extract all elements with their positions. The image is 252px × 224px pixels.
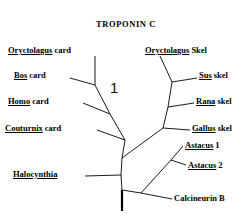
taxon-epithet <box>57 169 59 179</box>
taxon-epithet: skel <box>212 70 228 80</box>
taxon-genus: Astacus <box>188 160 216 170</box>
taxon-label-homo-card: Homocard <box>8 97 49 106</box>
taxon-genus: Homo <box>8 96 30 106</box>
taxon-label-halocynthia: Halocynthia <box>13 170 59 179</box>
taxon-label-astacus-1: Astacus1 <box>185 141 220 150</box>
branch-astacus-1 <box>171 146 183 160</box>
taxon-epithet: card <box>30 96 49 106</box>
taxon-epithet: Skel <box>189 45 207 55</box>
taxon-epithet: card <box>43 123 62 133</box>
taxon-epithet: card <box>52 45 71 55</box>
branch-node-b-to-c <box>110 114 125 140</box>
scale-bar-label: 1 <box>110 80 118 95</box>
taxon-genus: Astacus <box>185 140 213 150</box>
taxon-genus: Rana <box>196 96 215 106</box>
taxon-label-rana-skel: Ranaskel <box>196 97 232 106</box>
taxon-epithet: skel <box>216 123 232 133</box>
taxon-label-astacus-2: Astacus2 <box>188 161 223 170</box>
taxon-genus: Gallus <box>192 123 216 133</box>
taxon-label-gallus-skel: Gallusskel <box>192 124 232 133</box>
branch-node-h-to-i <box>121 175 122 190</box>
taxon-genus: Sus <box>199 70 212 80</box>
taxon-genus: Halocynthia <box>13 169 57 179</box>
taxon-epithet: 1 <box>213 140 219 150</box>
taxon-epithet: card <box>27 70 46 80</box>
phylogenetic-tree-figure: TROPONIN C <box>0 0 252 224</box>
branch-rana-skel <box>168 103 194 107</box>
branch-gallus-skel <box>163 128 190 130</box>
taxon-epithet: skel <box>215 96 231 106</box>
taxon-label-calcineurin-b: CalcineurinB <box>174 194 225 203</box>
branch-couturnix-card <box>97 130 125 140</box>
taxon-label-couturnix-card: Couturnixcard <box>5 124 61 133</box>
branch-node-i-to-j <box>122 190 141 193</box>
tree-branches <box>0 0 252 224</box>
taxon-label-bos-card: Boscard <box>14 71 46 80</box>
branch-astacus-stem <box>141 160 171 193</box>
taxon-label-sus-skel: Susskel <box>199 71 228 80</box>
branch-skeletal-stem <box>122 128 163 158</box>
branch-sus-skel <box>172 78 197 82</box>
branch-node-f-to-g <box>163 107 168 128</box>
branch-astacus-2 <box>171 160 186 165</box>
branch-cardiac-stem <box>122 140 125 158</box>
taxon-genus: Calcineurin <box>174 193 217 203</box>
taxon-genus: Couturnix <box>5 123 43 133</box>
branch-halocynthia <box>85 175 121 176</box>
taxon-label-oryctolagus-skel: OryctolagusSkel <box>145 46 207 55</box>
branch-node-e-to-f <box>168 82 172 107</box>
taxon-label-oryctolagus-card: Oryctolaguscard <box>8 46 71 55</box>
taxon-genus: Bos <box>14 70 27 80</box>
taxon-genus: Oryctolagus <box>145 45 189 55</box>
branch-calcineurin-b <box>141 193 172 199</box>
taxon-epithet: B <box>217 193 225 203</box>
branch-node-a-to-b <box>95 85 110 114</box>
branch-node-d-to-h <box>121 158 122 175</box>
branch-bos-card <box>70 78 95 85</box>
taxon-genus: Oryctolagus <box>8 45 52 55</box>
branch-homo-card <box>83 103 110 114</box>
taxon-epithet: 2 <box>216 160 222 170</box>
branch-oryctolagus-skel <box>160 56 172 82</box>
